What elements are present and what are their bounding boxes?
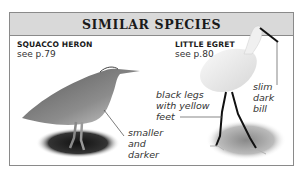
page-ref-little-egret[interactable]: see p.80: [175, 49, 214, 59]
page-ref-squacco-heron[interactable]: see p.79: [17, 49, 56, 59]
species-name-squacco-heron: SQUACCO HERON: [17, 40, 92, 49]
annotation-smaller-and-darker: smaller and darker: [128, 127, 163, 160]
annotation-black-legs-yellow-feet: black legs with yellow feet: [156, 89, 210, 122]
species-name-little-egret: LITTLE EGRET: [175, 40, 235, 49]
squacco-heron-illustration: [22, 67, 140, 158]
annotation-slim-dark-bill: slim dark bill: [253, 81, 274, 114]
